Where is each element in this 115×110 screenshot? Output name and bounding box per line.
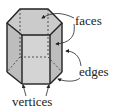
diagram-canvas: faces edges vertices <box>0 0 115 110</box>
edges-arrow-lower <box>58 78 80 81</box>
front-face <box>22 35 50 84</box>
vertices-label: vertices <box>12 94 52 109</box>
faces-label: faces <box>75 13 102 28</box>
edges-label: edges <box>79 64 109 79</box>
hexagonal-prism-diagram: faces edges vertices <box>0 0 115 110</box>
